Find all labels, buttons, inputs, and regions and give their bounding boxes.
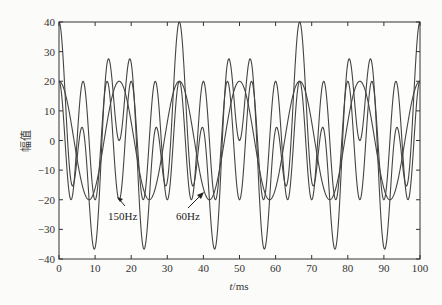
waveform-chart: 0102030405060708090100 −40−30−20−1001020… xyxy=(0,0,442,305)
x-tick-label: 90 xyxy=(378,262,390,274)
y-tick-label: −30 xyxy=(38,223,56,235)
x-tick-label: 60 xyxy=(270,262,282,274)
x-tick-label: 10 xyxy=(90,262,102,274)
y-tick-label: −10 xyxy=(38,164,56,176)
x-tick-label: 80 xyxy=(342,262,354,274)
x-tick-label: 20 xyxy=(126,262,138,274)
x-tick-label: 100 xyxy=(412,262,429,274)
label-150hz: 150Hz xyxy=(108,210,137,222)
x-tick-label: 0 xyxy=(56,262,62,274)
x-tick-label: 40 xyxy=(198,262,210,274)
y-tick-label: −40 xyxy=(38,253,56,265)
y-tick-label: 10 xyxy=(44,105,56,117)
y-tick-label: 20 xyxy=(44,75,56,87)
y-tick-label: −20 xyxy=(38,194,56,206)
y-tick-label: 30 xyxy=(44,46,56,58)
label-60hz: 60Hz xyxy=(176,210,200,222)
y-axis-label: 幅值 xyxy=(20,130,32,152)
x-tick-label: 70 xyxy=(306,262,318,274)
y-tick-label: 40 xyxy=(44,16,56,28)
x-tick-label: 50 xyxy=(234,262,246,274)
x-tick-label: 30 xyxy=(162,262,174,274)
y-tick-label: 0 xyxy=(50,135,56,147)
x-axis-label: t/ms xyxy=(230,280,249,292)
